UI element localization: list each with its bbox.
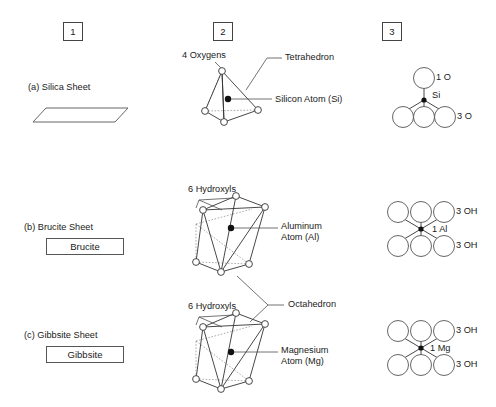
magnesium-center-dot <box>418 345 423 350</box>
label-3-oh-top-gibbsite: 3 OH <box>456 325 477 336</box>
hydroxyl-circle-bottom-right <box>434 355 455 376</box>
hydroxyl-circle-bottom-center <box>411 355 432 376</box>
hydroxyl-circle-bottom-left <box>388 355 409 376</box>
mineral-sheet-structure-figure: 1 2 3 (a) Silica Sheet 4 Oxygens Tetrahe… <box>0 0 496 407</box>
hydroxyl-circle-top-left <box>388 321 409 342</box>
label-3-oh-bottom-gibbsite: 3 OH <box>456 359 477 370</box>
label-1-mg: 1 Mg <box>430 343 450 354</box>
gibbsite-schematic <box>0 0 496 407</box>
hydroxyl-circle-top-right <box>434 321 455 342</box>
hydroxyl-circle-top-center <box>411 321 432 342</box>
